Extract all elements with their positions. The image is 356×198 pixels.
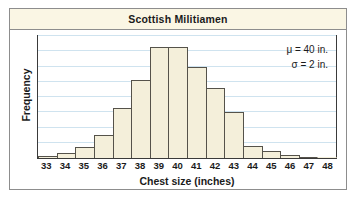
x-axis-tick-label: 37 (112, 160, 131, 174)
x-axis-tick-label: 40 (168, 160, 187, 174)
x-axis-tick-label: 48 (318, 160, 337, 174)
x-axis-tick-label: 36 (93, 160, 112, 174)
x-axis-tick-label: 34 (56, 160, 75, 174)
x-axis-tick-label: 35 (75, 160, 94, 174)
x-axis-label: Chest size (inches) (37, 175, 337, 187)
histogram-bar (113, 108, 133, 158)
histogram-bar (75, 147, 95, 158)
x-axis-tick-label: 47 (300, 160, 319, 174)
stats-annotation: μ = 40 in. σ = 2 in. (286, 42, 328, 72)
x-axis-tick-label: 33 (37, 160, 56, 174)
x-axis-tick-label: 38 (131, 160, 150, 174)
histogram-bar (187, 67, 207, 159)
figure-panel: Scottish Militiamen Frequency μ = 40 in.… (9, 8, 347, 190)
page-title: Scottish Militiamen (128, 13, 227, 25)
histogram-bar (94, 135, 114, 158)
histogram-bar (57, 153, 77, 158)
mean-annotation: μ = 40 in. (286, 42, 328, 57)
x-axis-tick-label: 44 (243, 160, 262, 174)
x-axis-tick-label: 45 (262, 160, 281, 174)
x-axis-tick-label: 46 (281, 160, 300, 174)
histogram-bar (317, 157, 337, 158)
histogram-bar (262, 151, 282, 158)
y-axis-label-text: Frequency (20, 68, 32, 121)
chart-title-band: Scottish Militiamen (10, 9, 346, 30)
x-axis-ticks: 33343536373839404142434445464748 (37, 160, 337, 174)
histogram-bar (280, 155, 300, 158)
x-axis-tick-label: 43 (225, 160, 244, 174)
x-axis-tick-label: 42 (206, 160, 225, 174)
histogram-bar (206, 88, 226, 158)
x-axis-tick-label: 41 (187, 160, 206, 174)
histogram-bar (131, 80, 151, 158)
y-axis-label: Frequency (18, 43, 34, 147)
histogram-bar (168, 47, 188, 158)
plot-area: μ = 40 in. σ = 2 in. (37, 35, 337, 159)
histogram-bar (224, 112, 244, 158)
histogram-bar (38, 156, 58, 158)
x-axis-tick-label: 39 (150, 160, 169, 174)
histogram-bar (243, 146, 263, 158)
histogram-bar (150, 47, 170, 158)
sd-annotation: σ = 2 in. (286, 57, 328, 72)
histogram-bar (299, 157, 319, 158)
